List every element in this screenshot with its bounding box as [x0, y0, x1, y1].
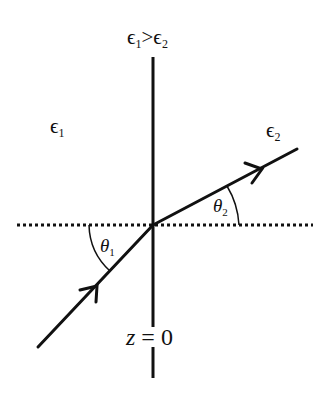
epsilon-symbol: ϵ [127, 25, 136, 49]
epsilon-symbol: ϵ [50, 114, 59, 138]
z-value: 0 [161, 324, 173, 350]
epsilon-symbol: ϵ [153, 25, 162, 49]
theta-symbol: θ [100, 235, 109, 256]
permittivity-condition-label: ϵ1>ϵ2 [127, 27, 168, 50]
angle-arc-theta2 [227, 186, 239, 225]
region-right-label: ϵ2 [266, 120, 281, 143]
angle-theta1-label: θ1 [100, 236, 115, 258]
z-variable: z [126, 324, 135, 350]
theta-subscript: 1 [109, 246, 115, 258]
theta-symbol: θ [213, 195, 222, 216]
epsilon-subscript: 2 [275, 130, 281, 144]
epsilon-subscript: 2 [162, 37, 168, 51]
interface-position-label: z = 0 [126, 325, 173, 349]
equals-sign: = [135, 324, 161, 350]
epsilon-symbol: ϵ [266, 118, 275, 142]
theta-subscript: 2 [222, 206, 228, 218]
angle-theta2-label: θ2 [213, 196, 228, 218]
region-left-label: ϵ1 [50, 116, 65, 139]
epsilon-subscript: 1 [59, 126, 65, 140]
relation-symbol: > [142, 25, 154, 49]
